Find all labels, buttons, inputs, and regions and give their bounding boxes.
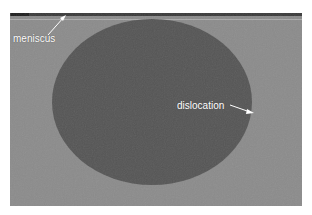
dislocation-label: dislocation [177, 100, 224, 111]
micrograph-image: meniscus dislocation [10, 13, 302, 206]
meniscus-label: meniscus [13, 33, 55, 44]
